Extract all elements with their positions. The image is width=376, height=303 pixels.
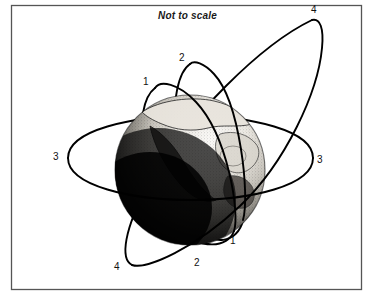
earth-night-core bbox=[88, 152, 212, 264]
orbit-3-label-left: 3 bbox=[53, 152, 59, 162]
orbit-4-label-top: 4 bbox=[311, 5, 317, 15]
earth-globe bbox=[80, 95, 265, 272]
orbit-2-label-top: 2 bbox=[179, 53, 185, 63]
orbit-3-label-right: 3 bbox=[317, 155, 323, 165]
not-to-scale-caption: Not to scale bbox=[158, 10, 217, 21]
orbit-1-label-bottom: 1 bbox=[230, 236, 236, 246]
satellite-orbit-diagram: Not to scale 1 2 4 3 3 1 2 4 bbox=[0, 0, 376, 303]
orbit-4-label-bottom: 4 bbox=[114, 262, 120, 272]
orbit-2-label-bottom: 2 bbox=[194, 258, 200, 268]
earth-landmasses bbox=[80, 95, 265, 272]
orbit-1-label-top: 1 bbox=[143, 77, 149, 87]
